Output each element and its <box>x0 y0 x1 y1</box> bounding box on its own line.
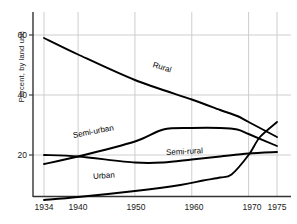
x-tick-label-1975: 1975 <box>260 202 294 212</box>
vertical-gridlines <box>44 12 277 196</box>
chart-plot-area <box>0 0 297 224</box>
y-tick-label-60: 60 <box>5 30 27 40</box>
series-label-urban: Urban <box>93 170 115 180</box>
horizontal-gridlines <box>33 35 291 155</box>
x-tick-label-1934: 1934 <box>27 202 61 212</box>
y-tick-label-40: 40 <box>5 90 27 100</box>
y-tick-label-20: 20 <box>5 150 27 160</box>
x-tick-label-1950: 1950 <box>119 202 153 212</box>
land-use-line-chart: Percent, by land use 60 40 20 1934 1940 … <box>0 0 297 224</box>
x-tick-label-1960: 1960 <box>177 202 211 212</box>
x-tick-label-1940: 1940 <box>61 202 95 212</box>
series-label-semi-rural: Semi-rural <box>166 146 203 157</box>
y-axis-title: Percent, by land use <box>17 2 26 132</box>
